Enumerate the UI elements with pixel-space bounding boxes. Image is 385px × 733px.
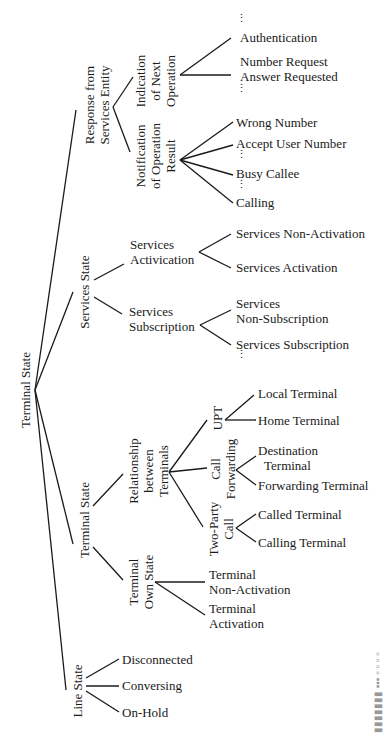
leaf-services-subscription: Services Subscription [236,337,349,352]
leaf-conversing: Conversing [122,678,182,693]
leaf-disconnected: Disconnected [122,652,193,667]
node-terminal-state: Terminal State [77,480,92,560]
node-response-from-services-entity: Response from Services Entity [82,62,112,148]
leaf-services-activation: Services Activation [236,260,337,275]
leaf-number-request: Number Request [240,54,328,69]
root-node-terminal-state: Terminal State [18,348,33,432]
leaf-answer-requested: Answer Requested [240,69,338,84]
ellipsis-icon: ⋮ [236,352,242,357]
leaf-on-hold: On-Hold [122,705,168,720]
ellipsis-icon: ⋮ [236,16,242,21]
leaf-authentication: Authentication [240,30,317,45]
leaf-services-non-activation: Services Non-Activation [236,226,365,241]
node-call-forwarding: Call Forwarding [208,438,238,500]
node-relationship-between-terminals: Relationship between Terminals [126,427,171,515]
leaf-wrong-number: Wrong Number [236,115,317,130]
leaf-calling: Calling [236,195,274,210]
node-two-party-call: Two-Party Call [206,498,236,560]
ellipsis-icon: ⋮ [236,86,242,91]
node-indication-of-next-operation: Indication of Next Operation [133,52,178,110]
ellipsis-icon: ⋮ [236,152,242,157]
leaf-services-non-subscription: Services Non-Subscription [236,296,328,326]
node-terminal-own-state: Terminal Own State [126,552,156,612]
leaf-local-terminal: Local Terminal [258,386,337,401]
leaf-destination-terminal: Destination Terminal [258,443,318,473]
leaf-forwarding-terminal: Forwarding Terminal [258,478,368,493]
leaf-accept-user-number: Accept User Number [236,136,346,151]
leaf-called-terminal: Called Terminal [258,507,342,522]
tree-connector-lines [0,0,385,733]
leaf-home-terminal: Home Terminal [258,413,340,428]
leaf-terminal-activation: Terminal Activation [209,601,264,631]
node-line-state: Line State [70,658,85,724]
node-services-subscription: Services Subscription [129,304,195,334]
leaf-calling-terminal: Calling Terminal [258,535,346,550]
clipped-figure-caption: ▮▮▮▮▮▮▮ ▪▪▪ ▫ ▫ ▫ ▫ [372,652,383,733]
terminal-state-tree-diagram: Terminal State Response from Services En… [0,0,385,733]
node-notification-of-operation-result: Notification of Operation Result [133,122,178,190]
leaf-terminal-non-activation: Terminal Non-Activation [209,567,291,597]
node-services-activication: Services Activication [130,237,194,267]
node-upt: UPT [210,400,225,436]
node-services-state: Services State [77,254,92,330]
ellipsis-icon: ⋮ [236,182,242,187]
